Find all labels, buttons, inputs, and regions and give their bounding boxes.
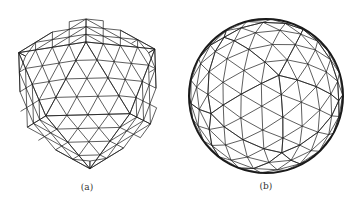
panel-b-geodesic-sphere: (b) bbox=[0, 0, 361, 207]
caption-b: (b) bbox=[260, 181, 273, 191]
geodesic-sphere-mesh-figure bbox=[0, 0, 361, 207]
